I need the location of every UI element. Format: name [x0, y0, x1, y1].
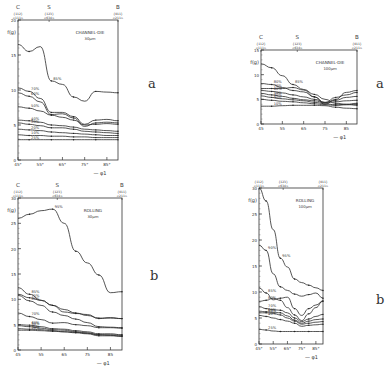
series-label: 90% — [268, 246, 277, 250]
orientation-label: B — [116, 4, 120, 10]
chart-svg: 0510154555657585— φ1f(g)C{112}<111>S{123… — [249, 38, 364, 138]
orientation-label: S — [296, 34, 300, 40]
y-tick-label: 10 — [11, 297, 17, 302]
y-tick-label: 20 — [252, 238, 258, 243]
orientation-direction: <111> — [254, 184, 265, 188]
chart-subtitle: 100µm — [298, 204, 312, 209]
orientation-label: S — [56, 182, 60, 188]
y-tick-label: 15 — [11, 272, 17, 277]
x-tick-label: 85° — [103, 162, 110, 167]
orientation-direction: <111> — [256, 46, 267, 50]
y-tick-label: 10 — [252, 290, 258, 295]
x-tick-label: 65° — [59, 162, 66, 167]
orientation-direction: <211> — [318, 184, 329, 188]
y-tick-label: 15 — [252, 264, 258, 269]
orientation-direction: <634> — [52, 194, 63, 198]
chart-rolling-100um: 05101520253045°55°65°75°85°— φ1f(g){112}… — [249, 186, 329, 374]
series-line — [18, 209, 122, 293]
y-tick-label: 5 — [254, 316, 257, 321]
plot-frame — [259, 188, 323, 344]
x-tick-label: 45 — [258, 126, 264, 131]
chart-svg: 0510152025304555657585— φ1f(g)C{112}<111… — [0, 186, 125, 374]
series-label: 70% — [31, 87, 40, 91]
series-label: 85% — [268, 289, 277, 293]
chart-title: ROLLING — [84, 208, 102, 213]
x-axis-label: — φ1 — [97, 360, 110, 367]
panel-letter-b-right: b — [376, 292, 384, 307]
series-label: 95% — [282, 254, 291, 258]
x-tick-label: 75 — [85, 352, 91, 357]
chart-subtitle: 30µm — [85, 36, 96, 41]
y-axis-label: f(g) — [7, 29, 16, 36]
panel-letter-a-right: a — [376, 76, 384, 91]
orientation-direction: <634> — [44, 16, 55, 20]
orientation-direction: <211> — [352, 46, 363, 50]
x-tick-label: 55° — [270, 346, 277, 351]
series-label: 70% — [32, 312, 41, 316]
series-label: 80% — [268, 296, 277, 300]
orientation-direction: <211> — [117, 194, 128, 198]
series-label: 25% — [268, 326, 277, 330]
x-tick-label: 85° — [312, 346, 319, 351]
chart-svg: 0510152045°55°65°75°85°— φ1f(g)C{112}<11… — [0, 0, 125, 180]
series-label: 95% — [55, 205, 64, 209]
series-label: 20% — [32, 326, 41, 330]
y-tick-label: 20 — [11, 247, 17, 252]
chart-rolling-30um: 0510152025304555657585— φ1f(g)C{112}<111… — [0, 186, 125, 374]
series-label: 80% — [32, 297, 41, 301]
chart-channel-die-30um: 0510152045°55°65°75°85°— φ1f(g)C{112}<11… — [0, 0, 125, 180]
x-tick-label: 65 — [62, 352, 68, 357]
chart-title: ROLLING — [296, 198, 314, 203]
orientation-direction: <111> — [13, 16, 24, 20]
y-tick-label: 25 — [252, 212, 258, 217]
y-axis-label: f(g) — [250, 59, 259, 66]
chart-svg: 05101520253045°55°65°75°85°— φ1f(g){112}… — [249, 186, 329, 374]
y-tick-label: 5 — [256, 97, 259, 102]
y-tick-label: 10 — [11, 88, 17, 93]
x-axis-label: — φ1 — [333, 134, 346, 141]
y-tick-label: 5 — [13, 323, 16, 328]
x-tick-label: 45° — [255, 346, 262, 351]
orientation-label: B — [120, 182, 124, 188]
x-tick-label: 65 — [301, 126, 307, 131]
orientation-label: C — [16, 182, 20, 188]
chart-subtitle: 100µm — [323, 66, 337, 71]
y-axis-label: f(g) — [7, 207, 16, 214]
orientation-direction: <211> — [113, 16, 124, 20]
orientation-direction: <634> — [292, 46, 303, 50]
series-label: 50% — [31, 104, 40, 108]
orientation-label: C — [259, 34, 263, 40]
orientation-direction: <634> — [278, 184, 289, 188]
x-tick-label: 75° — [298, 346, 305, 351]
y-tick-label: 10 — [254, 73, 260, 78]
x-tick-label: 75° — [81, 162, 88, 167]
x-tick-label: 55 — [280, 126, 286, 131]
x-tick-label: 55° — [37, 162, 44, 167]
chart-channel-die-100um: 0510154555657585— φ1f(g)C{112}<111>S{123… — [249, 38, 364, 138]
series-label: 20% — [31, 126, 40, 130]
series-label: 10% — [274, 102, 283, 106]
x-tick-label: 45° — [14, 162, 21, 167]
chart-subtitle: 30µm — [87, 214, 98, 219]
x-tick-label: 85 — [344, 126, 350, 131]
x-tick-label: 85 — [108, 352, 114, 357]
y-tick-label: 15 — [11, 53, 17, 58]
x-tick-label: 55 — [38, 352, 44, 357]
x-axis-label: — φ1 — [93, 170, 106, 177]
series-label: 85% — [53, 77, 62, 81]
chart-title: CHANNEL-DIE — [76, 30, 105, 35]
panel-letter-a-left: a — [148, 76, 156, 91]
orientation-label: S — [47, 4, 51, 10]
orientation-label: B — [355, 34, 359, 40]
chart-title: CHANNEL-DIE — [316, 60, 345, 65]
series-label: 25% — [31, 136, 40, 140]
x-tick-label: 75 — [322, 126, 328, 131]
series-label: 85% — [295, 80, 304, 84]
x-tick-label: 65° — [284, 346, 291, 351]
y-tick-label: 5 — [13, 123, 16, 128]
x-axis-label: — φ1 — [305, 354, 318, 361]
series-label: 60% — [31, 92, 40, 96]
panel-letter-b-left: b — [150, 268, 158, 283]
series-label: 30% — [274, 96, 283, 100]
series-line — [259, 188, 323, 290]
